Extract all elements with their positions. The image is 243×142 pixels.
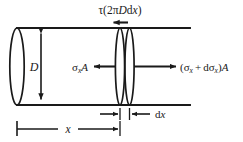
cylinder-left-end-ellipse bbox=[10, 28, 24, 105]
position-label: x bbox=[64, 123, 71, 135]
element-right-face-ellipse bbox=[125, 28, 134, 105]
left-area-symbol: A bbox=[80, 61, 88, 73]
right-plus-sign: + bbox=[195, 61, 201, 73]
right-sigma-subscript: x bbox=[189, 66, 194, 75]
element-left-face-ellipse bbox=[115, 28, 124, 105]
shear-force-label: τ(2πDdx) bbox=[98, 4, 141, 17]
diagram-canvas: τ(2πDdx) σxA (σx+dσx)A D x dx bbox=[0, 0, 243, 142]
dx-dimension bbox=[100, 108, 150, 120]
left-force-label: σxA bbox=[72, 61, 88, 76]
right-force-label: (σx+dσx)A bbox=[180, 61, 229, 76]
cylinder-stress-diagram: τ(2πDdx) σxA (σx+dσx)A D x dx bbox=[0, 0, 243, 142]
diameter-label: D bbox=[29, 60, 39, 74]
right-area-symbol: A bbox=[221, 61, 229, 73]
element-width-label: dx bbox=[155, 108, 166, 120]
element-slice bbox=[115, 28, 134, 105]
shear-close-paren: ) bbox=[138, 4, 142, 17]
dx-symbol: x bbox=[160, 108, 166, 120]
